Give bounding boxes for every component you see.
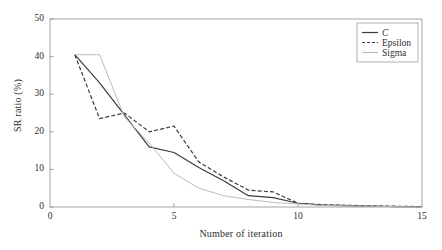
y-tick-label: 40 [20,51,44,61]
x-tick-label: 0 [38,211,62,221]
y-tick-label: 0 [20,201,44,211]
legend-label-epsilon: Epsilon [382,38,411,48]
y-tick-label: 20 [20,126,44,136]
y-tick-label: 50 [20,13,44,23]
legend: C Epsilon Sigma [357,23,418,62]
x-tick-label: 15 [410,211,434,221]
legend-label-c: C [382,28,389,38]
y-tick-label: 10 [20,163,44,173]
chart-figure: C Epsilon Sigma 05101501020304050 Number… [0,0,442,250]
y-axis-label: SR ratio (%) [12,56,23,156]
x-tick-label: 5 [162,211,186,221]
y-tick-label: 30 [20,88,44,98]
plot-canvas: C Epsilon Sigma [0,0,442,250]
x-axis-label: Number of iteration [0,228,442,239]
legend-label-sigma: Sigma [382,48,407,58]
x-tick-label: 10 [286,211,310,221]
